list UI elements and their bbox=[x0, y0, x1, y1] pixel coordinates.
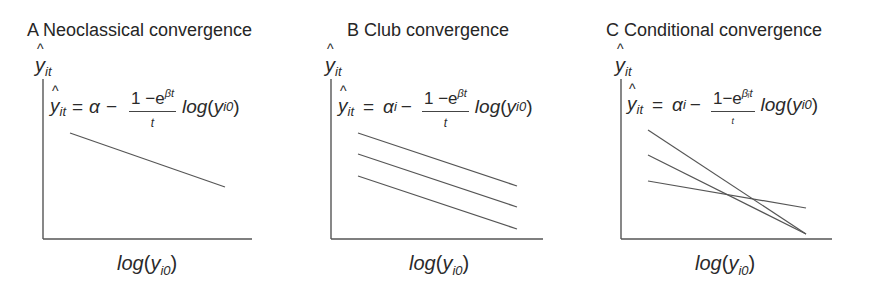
panel-c-y-label: ^yit bbox=[615, 54, 632, 79]
panel-b-fraction: 1 −eβtt bbox=[422, 87, 469, 130]
panel-a-title: A Neoclassical convergence bbox=[27, 20, 252, 41]
panel-a-x-label: log(yi0) bbox=[117, 252, 177, 278]
panel-b-equation: ^yit = αi − 1 −eβtt log(yi0) bbox=[338, 85, 533, 128]
panel-a-y-label: ^yit bbox=[35, 54, 52, 79]
panel-b-x-label: log(yi0) bbox=[409, 252, 469, 278]
panel-c-fraction: 1−eβᵢtt bbox=[711, 87, 755, 126]
panel-a: A Neoclassical convergence ^yit ^yit = α… bbox=[0, 0, 296, 293]
panel-c-x-label: log(yi0) bbox=[695, 252, 755, 278]
panel-a-fraction: 1 −eβtt bbox=[129, 87, 176, 130]
panel-c-title: C Conditional convergence bbox=[606, 20, 822, 41]
panel-c: C Conditional convergence ^yit ^yit = αi… bbox=[592, 0, 889, 293]
panel-b-title: B Club convergence bbox=[347, 20, 509, 41]
panel-c-equation: ^yit = αi − 1−eβᵢtt log(yi0) bbox=[627, 85, 818, 124]
panel-a-equation: ^yit = α − 1 −eβtt log(yi0) bbox=[50, 85, 240, 128]
panel-b: B Club convergence ^yit ^yit = αi − 1 −e… bbox=[296, 0, 592, 293]
panel-b-y-label: ^yit bbox=[325, 54, 342, 79]
